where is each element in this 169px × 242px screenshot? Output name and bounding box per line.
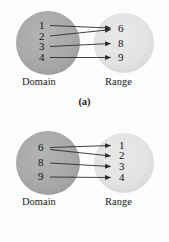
domain-element-b-2: 9 (38, 171, 44, 182)
range-label-a: Range (105, 76, 132, 87)
arrow-9-to-4 (50, 177, 111, 178)
range-element-b-3: 4 (119, 172, 125, 183)
domain-element-b-1: 8 (38, 157, 44, 168)
range-element-a-1: 8 (118, 38, 124, 49)
domain-circle-a (16, 11, 80, 75)
domain-element-a-3: 4 (39, 52, 45, 63)
figure-panel-b: 6 8 9 1 2 3 4 Domain Range (b) (0, 118, 169, 242)
domain-element-b-0: 6 (38, 142, 44, 153)
range-label-b: Range (105, 196, 132, 207)
mapping-diagram-b (0, 118, 169, 242)
caption-a: (a) (0, 96, 169, 107)
range-element-a-2: 9 (118, 52, 124, 63)
domain-circle-b (16, 131, 80, 195)
range-circle-a (94, 13, 154, 73)
figure-panel-a: 1 2 3 4 6 8 9 Domain Range (a) (0, 0, 169, 121)
range-element-a-0: 6 (118, 23, 124, 34)
domain-label-b: Domain (22, 196, 56, 207)
domain-label-a: Domain (22, 76, 56, 87)
